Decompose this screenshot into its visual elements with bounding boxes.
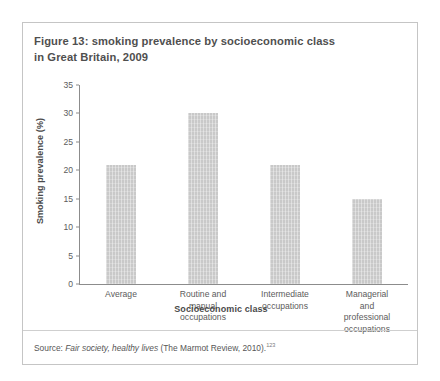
source-suffix: (The Marmot Review, 2010). xyxy=(158,343,266,353)
y-axis-tick-mark xyxy=(76,170,79,171)
x-axis-title: Socioeconomic class xyxy=(23,304,419,314)
y-axis-tick-label: 0 xyxy=(68,279,73,289)
y-axis-tick-mark xyxy=(76,227,79,228)
bar xyxy=(352,199,382,284)
y-axis-tick-mark xyxy=(76,255,79,256)
source-title: Fair society, healthy lives xyxy=(65,343,158,353)
y-axis-tick-mark xyxy=(76,85,79,86)
bar-slot xyxy=(162,85,244,284)
y-axis-tick-label: 35 xyxy=(63,80,73,90)
x-axis-tick-label-line: Managerial xyxy=(326,289,408,301)
x-axis-tick-label-line: Intermediate xyxy=(244,289,326,301)
figure-container: Figure 13: smoking prevalence by socioec… xyxy=(22,22,418,365)
bar-series xyxy=(80,85,408,284)
source-footnote-marker: 123 xyxy=(266,342,275,348)
source-note: Source: Fair society, healthy lives (The… xyxy=(34,339,404,354)
chart-area: Smoking prevalence (%) 05101520253035 Av… xyxy=(34,73,408,297)
y-axis-tick-label: 10 xyxy=(63,222,73,232)
x-axis-tick-label-line: Routine and xyxy=(162,289,244,301)
bar xyxy=(188,113,218,284)
y-axis-tick-label: 20 xyxy=(63,165,73,175)
y-axis-tick-label: 15 xyxy=(63,194,73,204)
source-prefix: Source: xyxy=(34,343,65,353)
source-divider xyxy=(23,330,417,331)
bar-slot xyxy=(80,85,162,284)
figure-title: Figure 13: smoking prevalence by socioec… xyxy=(34,33,394,65)
bar-slot xyxy=(244,85,326,284)
y-axis-tick-label: 30 xyxy=(63,108,73,118)
figure-title-line-2: in Great Britain, 2009 xyxy=(34,49,394,65)
x-axis-tick-label-line: Average xyxy=(80,289,162,301)
plot-area: 05101520253035 xyxy=(79,85,408,285)
y-axis-tick-label: 25 xyxy=(63,137,73,147)
y-axis-tick-mark xyxy=(76,141,79,142)
y-axis-tick-label: 5 xyxy=(68,251,73,261)
bar xyxy=(270,165,300,284)
figure-title-line-1: Figure 13: smoking prevalence by socioec… xyxy=(34,33,394,49)
y-axis-tick-mark xyxy=(76,113,79,114)
x-axis-line xyxy=(79,284,408,285)
bar-slot xyxy=(326,85,408,284)
y-axis-tick-mark xyxy=(76,284,79,285)
y-axis-title: Smoking prevalence (%) xyxy=(32,73,48,269)
y-axis-tick-mark xyxy=(76,198,79,199)
bar xyxy=(106,165,136,284)
x-axis-tick-label: Average xyxy=(80,289,162,301)
y-axis-title-text: Smoking prevalence (%) xyxy=(35,118,45,224)
